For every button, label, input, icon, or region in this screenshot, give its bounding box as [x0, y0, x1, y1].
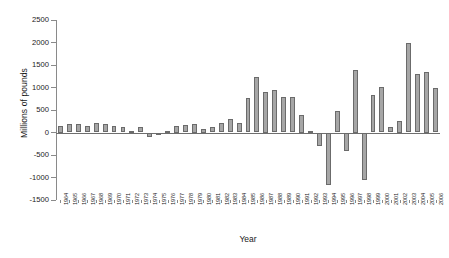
x-tick-mark	[69, 200, 70, 203]
x-tick-label: 1971	[125, 193, 131, 205]
x-tick-mark	[60, 200, 61, 203]
y-tick-mark	[51, 42, 56, 43]
x-tick-mark	[391, 200, 392, 203]
x-tick-mark	[221, 200, 222, 203]
bar	[379, 87, 384, 133]
bar-chart-figure: Millions of pounds 25002000150010005000-…	[0, 0, 449, 258]
x-tick-label: 1986	[259, 193, 265, 205]
x-tick-mark	[373, 200, 374, 203]
x-tick-label: 2004	[420, 193, 426, 205]
x-tick-label: 1980	[206, 193, 212, 205]
bar	[433, 88, 438, 133]
x-tick-mark	[78, 200, 79, 203]
bar	[219, 123, 224, 132]
y-tick-mark	[51, 155, 56, 156]
x-tick-mark	[355, 200, 356, 203]
bar	[254, 77, 259, 132]
x-tick-label: 1995	[340, 193, 346, 205]
x-tick-label: 1981	[215, 193, 221, 205]
x-tick-mark	[212, 200, 213, 203]
y-tick: 2500	[4, 15, 56, 25]
y-tick: -1000	[4, 173, 56, 183]
bar	[388, 127, 393, 133]
x-tick-label: 2006	[438, 193, 444, 205]
bar	[183, 125, 188, 132]
bar	[228, 119, 233, 132]
bar	[371, 95, 376, 133]
x-tick-mark	[239, 200, 240, 203]
bar	[147, 133, 152, 138]
x-tick-label: 1984	[241, 193, 247, 205]
x-tick-mark	[123, 200, 124, 203]
y-tick: 1000	[4, 83, 56, 93]
y-tick-label: 1000	[32, 83, 49, 93]
bar	[397, 121, 402, 132]
x-tick-label: 1974	[152, 193, 158, 205]
bar	[246, 98, 251, 132]
x-tick-label: 1992	[313, 193, 319, 205]
x-tick-mark	[328, 200, 329, 203]
x-tick-mark	[409, 200, 410, 203]
x-tick-label: 1988	[277, 193, 283, 205]
bar	[58, 126, 63, 133]
x-tick-label: 1983	[232, 193, 238, 205]
x-tick-mark	[141, 200, 142, 203]
bar	[165, 131, 170, 133]
x-tick-label: 2001	[393, 193, 399, 205]
x-tick-label: 2002	[402, 193, 408, 205]
x-tick-label: 1975	[161, 193, 167, 205]
x-tick-mark	[168, 200, 169, 203]
y-tick-label: 0	[45, 128, 49, 138]
x-tick-mark	[364, 200, 365, 203]
x-tick-label: 1965	[72, 193, 78, 205]
x-axis-title: Year	[56, 234, 440, 244]
y-tick-mark	[51, 20, 56, 21]
bar	[156, 133, 161, 135]
x-tick-mark	[230, 200, 231, 203]
bar	[94, 123, 99, 132]
x-tick-label: 1967	[90, 193, 96, 205]
x-tick-mark	[266, 200, 267, 203]
y-tick: 1500	[4, 60, 56, 70]
bar	[103, 124, 108, 132]
x-tick-label: 2000	[384, 193, 390, 205]
x-tick-mark	[203, 200, 204, 203]
x-tick-mark	[346, 200, 347, 203]
x-tick-label: 1999	[375, 193, 381, 205]
y-tick-mark	[51, 177, 56, 178]
bar	[263, 92, 268, 133]
x-tick-mark	[311, 200, 312, 203]
x-tick-label: 1972	[134, 193, 140, 205]
x-tick-mark	[302, 200, 303, 203]
x-tick-label: 1985	[250, 193, 256, 205]
x-tick-mark	[382, 200, 383, 203]
x-tick-label: 1994	[331, 193, 337, 205]
x-tick-mark	[319, 200, 320, 203]
y-tick: 500	[4, 105, 56, 115]
x-tick-mark	[418, 200, 419, 203]
bar	[76, 124, 81, 133]
y-tick-label: -1500	[30, 195, 49, 205]
y-tick-mark	[51, 110, 56, 111]
x-tick-label: 1976	[170, 193, 176, 205]
bar	[174, 126, 179, 133]
x-tick-label: 1993	[322, 193, 328, 205]
zero-baseline	[56, 133, 440, 134]
x-tick-label: 1996	[349, 193, 355, 205]
y-tick: 0	[4, 128, 56, 138]
y-tick-mark	[51, 200, 56, 201]
x-tick-mark	[257, 200, 258, 203]
x-tick-label: 1998	[366, 193, 372, 205]
y-tick-label: -500	[34, 150, 49, 160]
x-tick-label: 1978	[188, 193, 194, 205]
x-tick-mark	[114, 200, 115, 203]
bar	[281, 97, 286, 132]
bar	[299, 115, 304, 133]
bar	[112, 126, 117, 132]
bar	[237, 123, 242, 133]
x-tick-mark	[337, 200, 338, 203]
x-tick-label: 1991	[304, 193, 310, 205]
x-tick-mark	[185, 200, 186, 203]
y-tick: -1500	[4, 195, 56, 205]
y-axis-line	[56, 20, 57, 200]
